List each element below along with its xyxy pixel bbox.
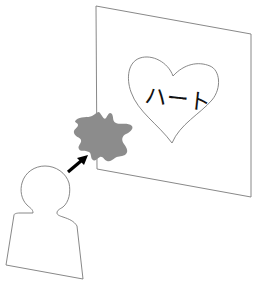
gaze-arrow <box>68 155 88 172</box>
person-silhouette <box>6 166 83 279</box>
diagram-canvas: ハート <box>0 0 254 288</box>
